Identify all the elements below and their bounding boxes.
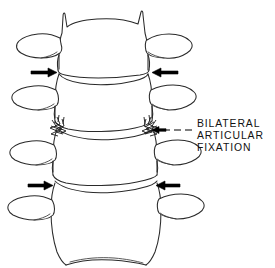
v2-left-transverse-process	[12, 86, 59, 110]
caption-line-1: BILATERAL	[197, 118, 260, 129]
caption-line-3: FIXATION	[197, 142, 251, 153]
cervical-spine-figure: BILATERAL ARTICULAR FIXATION	[0, 0, 275, 268]
v4-left-transverse-process	[8, 196, 55, 220]
v1-left-transverse-process	[17, 34, 62, 58]
caption-line-2: ARTICULAR	[197, 130, 264, 141]
v3-left-transverse-process	[10, 141, 57, 165]
spine-illustration-svg: BILATERAL ARTICULAR FIXATION	[0, 0, 275, 268]
